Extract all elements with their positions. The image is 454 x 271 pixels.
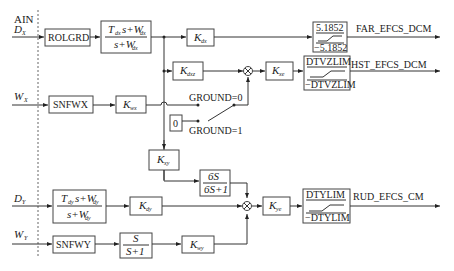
svg-text:−5.1852: −5.1852 (314, 42, 347, 53)
svg-text:dy: dy (93, 199, 99, 205)
svg-text:xe: xe (278, 71, 285, 77)
svg-text:T: T (61, 192, 68, 204)
control-block-diagram: AIN D X ROLGRD T dx s+W dx s+W dx K dx 5… (0, 0, 454, 271)
rolgrd-block: ROLGRD (45, 29, 90, 46)
svg-text:ye: ye (275, 206, 282, 212)
svg-text:SNFWY: SNFWY (56, 239, 91, 250)
kye-gain-block: K ye (263, 197, 290, 215)
svg-text:wy: wy (197, 245, 204, 251)
svg-text:Y: Y (24, 235, 28, 241)
rud-output-label: RUD_EFCS_CM (353, 191, 424, 202)
svg-text:W: W (14, 228, 24, 240)
svg-text:6S+1: 6S+1 (204, 183, 228, 195)
wx-input-label: W X (14, 90, 28, 103)
svg-text:Y: Y (22, 199, 26, 205)
zero-constant-block: 0 (170, 115, 182, 131)
svg-text:dy: dy (68, 199, 74, 205)
svg-text:S: S (133, 232, 139, 244)
snfwy-block: SNFWY (53, 236, 95, 253)
svg-text:T: T (108, 23, 115, 35)
svg-text:dx: dx (132, 45, 138, 51)
ground-0-label: GROUND=0 (189, 92, 242, 103)
svg-text:X: X (21, 30, 26, 36)
snfwx-block: SNFWX (49, 96, 93, 113)
svg-text:dx: dx (115, 30, 121, 36)
svg-text:−DTYLIM: −DTYLIM (305, 212, 350, 223)
kxe-gain-block: K xe (266, 62, 293, 80)
svg-text:DTYLIM: DTYLIM (306, 189, 345, 200)
lead-lag-filter-y-block: T dy s+W dy s+W dy (53, 190, 106, 223)
svg-text:5.1852: 5.1852 (316, 22, 344, 33)
lead-lag-filter-x-block: T dx s+W dx s+W dx (101, 21, 151, 53)
far-output-label: FAR_EFCS_DCM (356, 23, 432, 34)
highpass-filter-block: S S+1 (120, 232, 152, 258)
svg-text:D: D (13, 23, 22, 35)
svg-text:dy: dy (146, 206, 152, 212)
svg-text:dy: dy (85, 215, 91, 221)
kwx-gain-block: K wx (116, 96, 146, 113)
svg-text:ROLGRD: ROLGRD (48, 32, 89, 43)
rud-limiter-block: DTYLIM −DTYLIM (303, 189, 350, 223)
ground-1-label: GROUND=1 (189, 125, 242, 136)
sum-junction-rud (243, 202, 252, 211)
svg-text:wx: wx (130, 105, 137, 111)
svg-text:0: 0 (173, 118, 178, 129)
svg-text:W: W (14, 90, 24, 102)
svg-text:−DTVZLIM: −DTVZLIM (305, 79, 356, 90)
dy-input-label: D Y (13, 192, 26, 205)
svg-text:D: D (13, 192, 22, 204)
washout-6s-block: 6S 6S+1 (200, 170, 230, 196)
svg-text:X: X (23, 97, 28, 103)
kwy-gain-block: K wy (182, 236, 214, 253)
svg-text:SNFWX: SNFWX (53, 99, 89, 110)
hst-output-label: HST_EFCS_DCM (351, 59, 427, 70)
kdx-gain-block: K dx (187, 29, 214, 46)
sum-junction-hst (244, 67, 253, 76)
kdxz-gain-block: K dxz (173, 62, 203, 80)
kxy-gain-block: K xy (149, 150, 179, 170)
svg-text:dx: dx (140, 30, 146, 36)
svg-text:DTVZLIM: DTVZLIM (306, 56, 351, 67)
svg-text:dxz: dxz (187, 71, 196, 77)
wy-input-label: W Y (14, 228, 28, 241)
hst-limiter-block: DTVZLIM −DTVZLIM (304, 56, 356, 90)
svg-text:6S: 6S (208, 170, 220, 182)
svg-text:S+1: S+1 (126, 245, 144, 257)
kdy-gain-block: K dy (130, 197, 162, 215)
svg-text:dx: dx (201, 38, 207, 44)
far-limiter-block: 5.1852 −5.1852 (313, 22, 347, 53)
svg-text:xy: xy (163, 160, 170, 166)
